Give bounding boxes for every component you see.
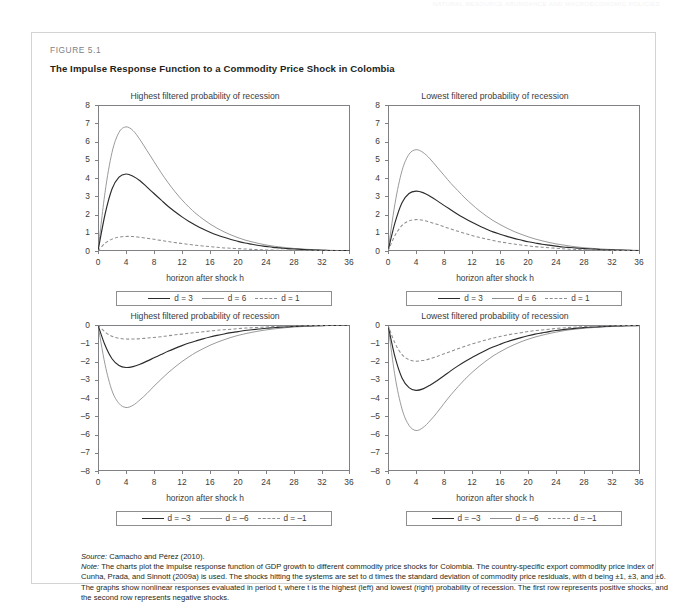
legend-item[interactable]: d = 6 (492, 294, 536, 303)
figure-notes: Source: Camacho and Pérez (2010). Note: … (81, 552, 676, 603)
series-line (98, 325, 350, 368)
x-tick (528, 251, 529, 254)
y-axis-label: 4 (66, 174, 90, 182)
x-tick (126, 251, 127, 254)
x-tick (294, 471, 295, 474)
x-axis-label: 16 (199, 477, 221, 487)
x-axis-label: 0 (87, 257, 109, 267)
legend-label: d = –3 (458, 514, 481, 523)
x-axis-label: 16 (489, 477, 511, 487)
x-axis-label: 20 (227, 477, 249, 487)
x-axis-label: 20 (517, 477, 539, 487)
x-axis-title: horizon after shock h (50, 493, 360, 503)
x-axis-label: 32 (311, 257, 333, 267)
y-axis-label: 8 (66, 101, 90, 109)
legend-label: d = 3 (174, 294, 192, 303)
y-axis-label: 0 (356, 247, 380, 255)
x-tick (182, 471, 183, 474)
legend-swatch-icon (545, 298, 567, 299)
chart-title: Highest filtered probability of recessio… (50, 91, 360, 101)
chart-bottom-left: Highest filtered probability of recessio… (50, 311, 360, 526)
source-text: Camacho and Pérez (2010). (107, 552, 205, 561)
x-axis-label: 20 (227, 257, 249, 267)
x-axis-label: 20 (517, 257, 539, 267)
figure-label: FIGURE 5.1 (50, 45, 101, 55)
legend-swatch-icon (548, 518, 570, 519)
figure-container: FIGURE 5.1 The Impulse Response Function… (31, 32, 656, 584)
legend-swatch-icon (202, 298, 224, 299)
x-tick (238, 471, 239, 474)
y-axis-label: –5 (66, 412, 90, 420)
x-axis-label: 28 (283, 257, 305, 267)
series-line (388, 325, 640, 390)
x-axis-label: 28 (283, 477, 305, 487)
y-axis-label: –8 (356, 467, 380, 475)
legend-item[interactable]: d = 1 (255, 294, 299, 303)
legend-item[interactable]: d = –3 (432, 514, 481, 523)
y-axis-label: –8 (66, 467, 90, 475)
x-tick (584, 251, 585, 254)
legend-label: d = –1 (284, 514, 307, 523)
x-tick (528, 471, 529, 474)
x-tick (584, 471, 585, 474)
series-line (98, 174, 350, 251)
y-axis-label: 5 (356, 155, 380, 163)
y-axis-label: –2 (66, 357, 90, 365)
legend-label: d = –1 (574, 514, 597, 523)
chart-title: Highest filtered probability of recessio… (50, 311, 360, 321)
legend-item[interactable]: d = 3 (148, 294, 192, 303)
x-tick (500, 471, 501, 474)
x-tick (126, 471, 127, 474)
series-line (98, 127, 350, 251)
x-axis-label: 24 (255, 477, 277, 487)
chart-title: Lowest filtered probability of recession (340, 91, 650, 101)
x-tick (444, 471, 445, 474)
x-axis-label: 4 (115, 257, 137, 267)
note-line: Note: The charts plot the impulse respon… (81, 562, 676, 603)
x-axis-label: 12 (461, 257, 483, 267)
legend-swatch-icon (255, 298, 277, 299)
x-tick (238, 251, 239, 254)
legend-label: d = –6 (226, 514, 249, 523)
x-axis-label: 8 (433, 257, 455, 267)
x-axis-label: 32 (601, 477, 623, 487)
x-tick (294, 251, 295, 254)
y-axis-label: –3 (66, 375, 90, 383)
x-axis-label: 24 (545, 257, 567, 267)
x-tick (500, 251, 501, 254)
x-axis-label: 36 (628, 257, 650, 267)
x-tick (639, 471, 640, 474)
chart-legend: d = 3d = 6d = 1 (406, 291, 622, 306)
series-line (388, 325, 640, 431)
x-tick (322, 251, 323, 254)
x-tick (388, 251, 389, 254)
x-axis-label: 0 (87, 477, 109, 487)
y-axis-label: 7 (356, 119, 380, 127)
y-axis-label: 7 (66, 119, 90, 127)
x-tick (639, 251, 640, 254)
legend-item[interactable]: d = 1 (545, 294, 589, 303)
plot-lines (388, 325, 640, 471)
y-axis-label: –1 (356, 339, 380, 347)
legend-item[interactable]: d = 6 (202, 294, 246, 303)
chart-legend: d = 3d = 6d = 1 (116, 291, 332, 306)
legend-label: d = 1 (571, 294, 589, 303)
legend-item[interactable]: d = –6 (200, 514, 249, 523)
legend-item[interactable]: d = –1 (258, 514, 307, 523)
y-axis-label: 0 (356, 321, 380, 329)
legend-item[interactable]: d = –3 (142, 514, 191, 523)
x-axis-label: 8 (143, 257, 165, 267)
chart-bottom-right: Lowest filtered probability of recession… (340, 311, 650, 526)
y-axis-label: 5 (66, 155, 90, 163)
legend-item[interactable]: d = 3 (438, 294, 482, 303)
x-axis-title: horizon after shock h (340, 273, 650, 283)
x-tick (416, 251, 417, 254)
y-axis-label: 1 (356, 228, 380, 236)
x-axis-label: 4 (405, 257, 427, 267)
note-text: The charts plot the impulse response fun… (81, 562, 668, 602)
legend-item[interactable]: d = –6 (490, 514, 539, 523)
x-tick (210, 471, 211, 474)
legend-swatch-icon (148, 298, 170, 299)
x-axis-label: 32 (601, 257, 623, 267)
legend-item[interactable]: d = –1 (548, 514, 597, 523)
